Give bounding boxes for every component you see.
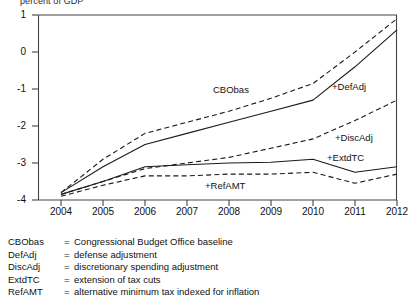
legend-row: CBObas=Congressional Budget Office basel…	[8, 236, 259, 249]
legend-description: extension of tax cuts	[74, 274, 161, 285]
legend-key: DiscAdj	[8, 261, 64, 274]
x-tick-label-2004: 2004	[41, 206, 81, 217]
chart-svg	[0, 0, 406, 232]
x-tick-label-2011: 2011	[335, 206, 375, 217]
y-tick-label-5: -4	[10, 194, 26, 205]
x-tick-label-2009: 2009	[251, 206, 291, 217]
series-label-cbobas: CBObas	[213, 84, 249, 95]
x-tick-label-2008: 2008	[209, 206, 249, 217]
chart-plot-area: 1 0 -1 -2 -3 -4 2004 2005 2006 2007 2008…	[0, 0, 406, 232]
plot-frame	[39, 15, 398, 200]
x-tick-label-2010: 2010	[293, 206, 333, 217]
chart-series-layer	[61, 19, 397, 197]
legend-equals: =	[64, 261, 74, 274]
series-label-defadj: +DefAdj	[332, 81, 366, 92]
y-tick-label-4: -3	[10, 157, 26, 168]
series-label-discadj: +DiscAdj	[335, 132, 373, 143]
y-tick-label-0: 1	[10, 9, 26, 20]
legend-equals: =	[64, 249, 74, 262]
legend-description: defense adjustment	[74, 249, 157, 260]
series-label-refamt: +RefAMT	[205, 180, 245, 191]
legend-key: RefAMT	[8, 286, 64, 299]
x-tick-label-2006: 2006	[125, 206, 165, 217]
legend-description: discretionary spending adjustment	[74, 261, 218, 272]
chart-legend: CBObas=Congressional Budget Office basel…	[8, 236, 259, 299]
y-tick-label-1: 0	[10, 46, 26, 57]
legend-equals: =	[64, 274, 74, 287]
series-line-defadj	[61, 19, 397, 193]
legend-key: ExtdTC	[8, 274, 64, 287]
legend-row: DefAdj=defense adjustment	[8, 249, 259, 262]
y-axis-ticks	[32, 15, 39, 200]
x-tick-label-2007: 2007	[167, 206, 207, 217]
legend-key: DefAdj	[8, 249, 64, 262]
x-tick-label-2005: 2005	[83, 206, 123, 217]
y-tick-label-3: -2	[10, 120, 26, 131]
legend-key: CBObas	[8, 236, 64, 249]
legend-description: Congressional Budget Office baseline	[74, 236, 233, 247]
series-label-extdtc: +ExtdTC	[327, 152, 364, 163]
legend-description: alternative minimum tax indexed for infl…	[74, 286, 259, 297]
x-tick-label-2012: 2012	[377, 206, 413, 217]
legend-row: RefAMT=alternative minimum tax indexed f…	[8, 286, 259, 299]
legend-row: DiscAdj=discretionary spending adjustmen…	[8, 261, 259, 274]
legend-row: ExtdTC=extension of tax cuts	[8, 274, 259, 287]
legend-equals: =	[64, 286, 74, 299]
y-tick-label-2: -1	[10, 83, 26, 94]
legend-equals: =	[64, 236, 74, 249]
